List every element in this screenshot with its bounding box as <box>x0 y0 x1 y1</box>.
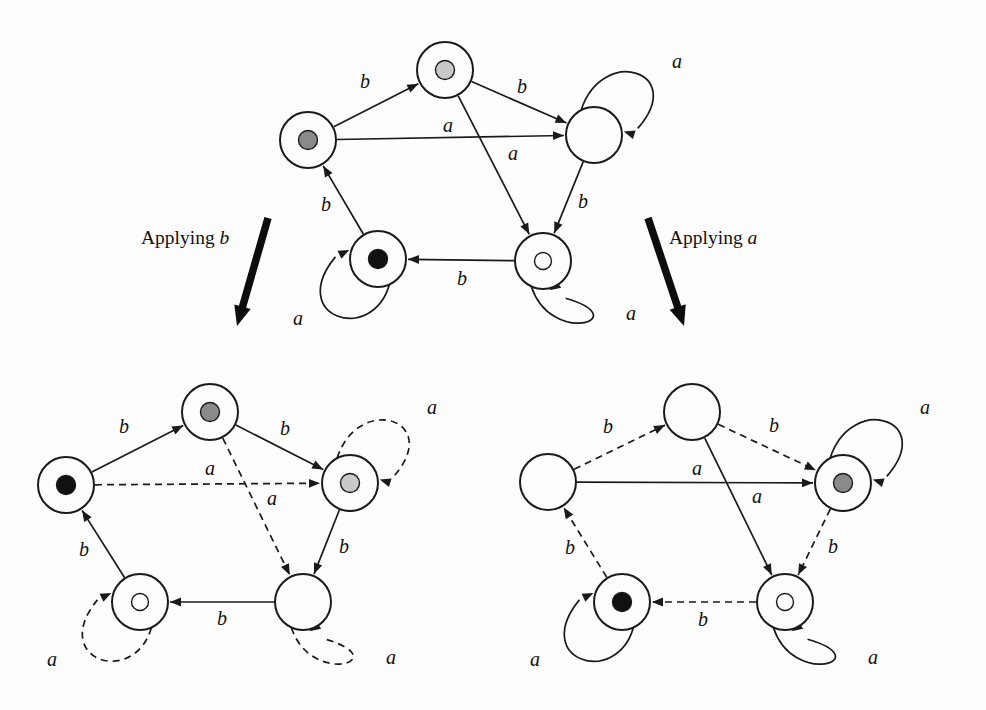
edge-label-b: b <box>339 535 349 557</box>
edge-bottom-left-n-left-to-n-right <box>95 483 320 485</box>
node-top-bottom-left[interactable] <box>350 231 406 287</box>
arrow-head <box>380 479 392 487</box>
edge-label-a: a <box>267 487 277 509</box>
arrow-head <box>281 563 290 575</box>
node-bottom-left-bottom-right[interactable] <box>275 574 331 630</box>
loop-label-a: a <box>868 646 878 668</box>
arrow-head <box>406 84 418 93</box>
arrow-head <box>408 255 419 264</box>
node-top-top[interactable] <box>417 42 473 98</box>
edge-top-n-left-to-n-right <box>337 136 564 140</box>
edge-bottom-left-n-top-to-n-botr <box>223 438 290 575</box>
node-bottom-right-bottom-left[interactable] <box>594 574 650 630</box>
edge-label-b: b <box>457 267 467 289</box>
node-bottom-right-right[interactable] <box>815 455 871 511</box>
arrow-head <box>804 462 816 471</box>
caption-symbol: a <box>748 227 758 248</box>
edge-label-b: b <box>769 414 779 436</box>
arrow-head <box>338 250 350 259</box>
edge-label-b: b <box>698 608 708 630</box>
edge-bottom-right-n-left-to-n-top <box>574 425 665 469</box>
caption-prefix: Applying <box>669 227 748 248</box>
arrow-head <box>802 478 813 487</box>
arrow-left-head <box>234 304 250 326</box>
caption-prefix: Applying <box>141 227 220 248</box>
node-bottom-left-right[interactable] <box>322 455 378 511</box>
arrow-head <box>553 131 564 140</box>
loop-label-a: a <box>293 307 303 329</box>
caption-symbol: b <box>220 227 230 248</box>
loop-label-a: a <box>427 396 437 418</box>
arrow-head <box>763 563 772 575</box>
arrow-right-head <box>670 304 686 326</box>
edge-label-b: b <box>578 190 588 212</box>
edge-label-b: b <box>603 415 613 437</box>
edge-bottom-right-n-left-to-n-right <box>577 482 813 483</box>
node-outline <box>664 384 720 440</box>
edge-label-a: a <box>205 457 215 479</box>
arrow-head <box>520 223 529 235</box>
edges-layer <box>82 82 830 607</box>
arrow-head <box>309 479 320 488</box>
edge-bottom-right-n-right-to-n-botr <box>798 509 830 575</box>
node-outline <box>566 107 622 163</box>
caption-applying-a: Applying a <box>669 227 757 249</box>
arrow-head <box>171 426 183 435</box>
arrow-head <box>100 593 112 602</box>
edge-top-n-botr-to-n-botl <box>408 259 514 260</box>
loop-label-a: a <box>920 396 930 418</box>
node-bottom-right-top[interactable] <box>664 384 720 440</box>
edge-label-b: b <box>565 536 575 558</box>
arrow-head <box>652 598 663 607</box>
node-top-bottom-right[interactable] <box>515 233 571 289</box>
arrow-head <box>323 166 332 178</box>
edge-label-a: a <box>692 457 702 479</box>
loop-label-a: a <box>386 646 396 668</box>
node-bottom-right-bottom-right[interactable] <box>757 574 813 630</box>
edge-label-a: a <box>752 485 762 507</box>
node-bottom-left-top[interactable] <box>182 384 238 440</box>
node-marker-medium_gray <box>834 474 853 493</box>
node-outline <box>520 454 576 510</box>
self-loop-top-n-botr <box>531 286 593 323</box>
edge-label-b: b <box>828 535 838 557</box>
node-top-right[interactable] <box>566 107 622 163</box>
arrow-head <box>582 593 594 602</box>
edge-label-b: b <box>79 538 89 560</box>
arrow-left <box>241 218 268 314</box>
node-bottom-left-left[interactable] <box>38 457 94 513</box>
caption-applying-b: Applying b <box>141 227 229 249</box>
node-bottom-left-bottom-left[interactable] <box>112 574 168 630</box>
node-outline <box>275 574 331 630</box>
edge-label-b: b <box>360 70 370 92</box>
arrow-head <box>873 479 885 487</box>
nodes-layer <box>38 42 871 630</box>
node-marker-light_gray <box>436 61 455 80</box>
node-marker-black <box>57 476 76 495</box>
edge-label-b: b <box>217 607 227 629</box>
node-marker-medium_gray <box>201 403 220 422</box>
node-marker-medium_gray <box>299 131 318 150</box>
node-top-left[interactable] <box>280 112 336 168</box>
arrow-head <box>170 598 181 607</box>
edge-label-a: a <box>443 114 453 136</box>
edge-label-b: b <box>280 417 290 439</box>
edge-label-b: b <box>517 75 527 97</box>
node-marker-hollow <box>132 594 149 611</box>
arrow-head <box>624 131 636 139</box>
edge-top-n-left-to-n-top <box>334 84 418 127</box>
node-marker-black <box>613 593 632 612</box>
node-marker-black <box>369 250 388 269</box>
node-marker-hollow <box>535 253 552 270</box>
arrow-head <box>555 115 567 123</box>
edge-bottom-left-n-left-to-n-top <box>92 426 183 472</box>
node-marker-hollow <box>777 594 794 611</box>
figure-root: bbaabbbaaabbaabbbaaabbaabbbaaa Applying … <box>0 0 986 710</box>
arrow-head <box>311 461 323 470</box>
self-loop-bottom-right-n-botr <box>773 627 835 664</box>
arrow-head <box>564 508 574 520</box>
node-bottom-right-left[interactable] <box>520 454 576 510</box>
edge-top-n-top-to-n-botr <box>458 96 529 235</box>
edge-bottom-right-n-top-to-n-right <box>718 424 816 470</box>
edge-label-a: a <box>508 142 518 164</box>
